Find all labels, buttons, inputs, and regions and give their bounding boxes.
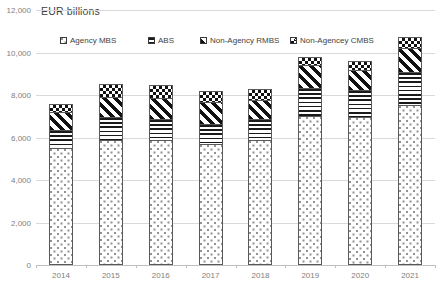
x-axis-tick-label-2020: 2020 <box>351 271 369 280</box>
bar-segment[interactable] <box>348 90 372 118</box>
bar-segment[interactable] <box>398 37 422 49</box>
bars-layer <box>36 10 435 265</box>
x-axis-tick-mark <box>385 265 386 268</box>
bar-segment[interactable] <box>248 100 272 119</box>
legend-item-label: Non-Agency RMBS <box>210 36 279 45</box>
legend-swatch-icon <box>290 37 297 44</box>
x-axis-tick-mark <box>136 265 137 268</box>
legend-item-label: ABS <box>158 36 174 45</box>
bar-segment[interactable] <box>398 48 422 71</box>
bar-segment[interactable] <box>99 117 123 139</box>
x-axis: 20142015201620172018201920202021 <box>36 265 435 283</box>
bar-segment[interactable] <box>298 116 322 265</box>
y-axis-tick-label: 10,000 <box>7 48 31 57</box>
y-axis-tick-label: 0 <box>27 261 31 270</box>
bar-segment[interactable] <box>398 105 422 265</box>
bar-segment[interactable] <box>99 84 123 97</box>
y-axis-tick-label: 4,000 <box>11 176 31 185</box>
bar-segment[interactable] <box>199 91 223 103</box>
legend-item-3[interactable]: Non-Agencey CMBS <box>290 36 374 45</box>
x-axis-tick-label-2017: 2017 <box>202 271 220 280</box>
bar-segment[interactable] <box>149 140 173 265</box>
x-axis-tick-mark <box>435 265 436 268</box>
legend-item-2[interactable]: Non-Agency RMBS <box>200 36 279 45</box>
legend-swatch-icon <box>60 37 67 44</box>
bar-segment[interactable] <box>248 119 272 139</box>
legend-swatch-icon <box>148 37 155 44</box>
legend-item-0[interactable]: Agency MBS <box>60 36 116 45</box>
bar-segment[interactable] <box>49 112 73 130</box>
bar-segment[interactable] <box>199 124 223 144</box>
bar-group-2019[interactable] <box>298 57 322 265</box>
stacked-bar-chart: EUR billions 02,0004,0006,0008,00010,000… <box>0 0 437 283</box>
x-axis-tick-label-2018: 2018 <box>252 271 270 280</box>
plot-area: 02,0004,0006,0008,00010,00012,000 <box>36 10 435 265</box>
x-axis-tick-mark <box>186 265 187 268</box>
legend-item-label: Non-Agencey CMBS <box>300 36 374 45</box>
bar-group-2020[interactable] <box>348 61 372 265</box>
bar-segment[interactable] <box>298 88 322 117</box>
y-axis-tick-label: 2,000 <box>11 218 31 227</box>
bar-segment[interactable] <box>199 144 223 265</box>
bar-group-2018[interactable] <box>248 89 272 265</box>
bar-segment[interactable] <box>398 72 422 105</box>
y-axis-tick-label: 6,000 <box>11 133 31 142</box>
bar-segment[interactable] <box>248 89 272 101</box>
bar-group-2015[interactable] <box>99 84 123 265</box>
bar-segment[interactable] <box>149 98 173 119</box>
legend-item-1[interactable]: ABS <box>148 36 174 45</box>
bar-segment[interactable] <box>298 57 322 66</box>
x-axis-tick-label-2016: 2016 <box>152 271 170 280</box>
x-axis-tick-mark <box>86 265 87 268</box>
bar-segment[interactable] <box>298 65 322 87</box>
bar-segment[interactable] <box>248 140 272 265</box>
bar-segment[interactable] <box>49 104 73 113</box>
x-axis-tick-label-2015: 2015 <box>102 271 120 280</box>
x-axis-tick-label-2014: 2014 <box>52 271 70 280</box>
bar-group-2017[interactable] <box>199 91 223 265</box>
bar-group-2014[interactable] <box>49 104 73 266</box>
bar-segment[interactable] <box>348 117 372 265</box>
x-axis-tick-label-2019: 2019 <box>301 271 319 280</box>
bar-segment[interactable] <box>49 130 73 148</box>
x-axis-tick-mark <box>335 265 336 268</box>
legend-swatch-icon <box>200 37 207 44</box>
bar-segment[interactable] <box>348 70 372 90</box>
bar-group-2016[interactable] <box>149 85 173 265</box>
bar-segment[interactable] <box>99 140 123 265</box>
legend-item-label: Agency MBS <box>70 36 116 45</box>
bar-segment[interactable] <box>99 97 123 117</box>
bar-group-2021[interactable] <box>398 37 422 265</box>
x-axis-tick-mark <box>36 265 37 268</box>
bar-segment[interactable] <box>199 102 223 123</box>
bar-segment[interactable] <box>49 148 73 265</box>
bar-segment[interactable] <box>348 61 372 70</box>
x-axis-tick-mark <box>285 265 286 268</box>
y-axis-tick-label: 12,000 <box>7 6 31 15</box>
bar-segment[interactable] <box>149 85 173 98</box>
y-axis-tick-label: 8,000 <box>11 91 31 100</box>
bar-segment[interactable] <box>149 119 173 139</box>
x-axis-tick-label-2021: 2021 <box>401 271 419 280</box>
x-axis-tick-mark <box>236 265 237 268</box>
